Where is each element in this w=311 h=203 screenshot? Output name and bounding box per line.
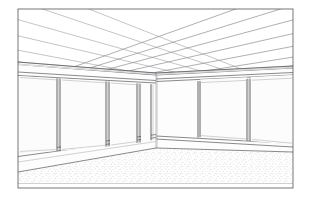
image-canvas: Interior perspective line drawing of an … xyxy=(0,0,311,203)
window-panel-r1 xyxy=(200,77,247,140)
window-panel-l4 xyxy=(141,84,151,143)
window-panel-r2 xyxy=(251,75,293,145)
scene-contents xyxy=(0,0,311,192)
left-wall-window-bank xyxy=(18,76,151,153)
right-wall xyxy=(156,69,293,153)
window-panel-l2 xyxy=(61,79,106,151)
interior-perspective-drawing xyxy=(0,0,311,203)
window-panel-l1 xyxy=(18,76,57,153)
window-panel-l3 xyxy=(110,82,137,147)
right-wall-window-bank xyxy=(200,75,293,145)
